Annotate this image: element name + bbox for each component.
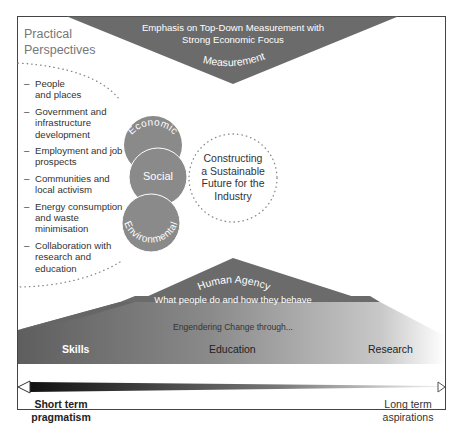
goal-line: Future for the: [189, 177, 277, 190]
practical-perspectives-title: Practical Perspectives: [24, 26, 96, 58]
list-item: –Energy consumptionand wasteminimisation: [24, 201, 134, 235]
dash-icon: –: [24, 78, 29, 89]
short-term-label: Short term pragmatism: [28, 398, 94, 424]
timeline-arrow-shaft: [30, 382, 442, 392]
goal-line: a Sustainable: [189, 165, 277, 178]
change-heading: Engendering Change through...: [150, 322, 316, 332]
list-item: –Employment and jobprospects: [24, 145, 134, 168]
short-term-line2: pragmatism: [28, 411, 94, 424]
dash-icon: –: [24, 145, 29, 156]
long-term-line1: Long term: [375, 398, 441, 411]
dash-icon: –: [24, 106, 29, 117]
list-item-line: infrastructure: [35, 117, 134, 128]
long-term-line2: aspirations: [375, 411, 441, 424]
timeline-right-arrowhead: [438, 382, 445, 392]
list-item-line: Government and: [35, 106, 134, 117]
list-item: –Peopleand places: [24, 78, 134, 101]
dash-icon: –: [24, 173, 29, 184]
list-item-line: Energy consumption: [35, 201, 134, 212]
list-item-line: minimisation: [35, 223, 134, 234]
list-item-line: education: [35, 263, 134, 274]
list-item-line: local activism: [35, 184, 134, 195]
measurement-heading: Emphasis on Top-Down Measurement with St…: [120, 22, 346, 46]
list-item-line: and waste: [35, 212, 134, 223]
long-term-label: Long term aspirations: [375, 398, 441, 424]
human-agency-subtitle: What people do and how they behave: [140, 294, 326, 305]
list-item-line: and places: [35, 89, 134, 100]
dash-icon: –: [24, 201, 29, 212]
skills-label: Skills: [62, 343, 89, 355]
education-label: Education: [209, 343, 256, 355]
goal-line: Constructing: [189, 152, 277, 165]
goal-line: Industry: [189, 190, 277, 203]
pp-title-line1: Practical: [24, 26, 96, 42]
list-item: –Collaboration withresearch andeducation: [24, 240, 134, 274]
social-label: Social: [129, 170, 187, 182]
list-item-line: development: [35, 129, 134, 140]
list-item: –Government andinfrastructuredevelopment: [24, 106, 134, 140]
list-item: –Communities andlocal activism: [24, 173, 134, 196]
practical-perspectives-list: –Peopleand places –Government andinfrast…: [24, 78, 134, 279]
list-item-line: Employment and job: [35, 145, 134, 156]
pp-title-line2: Perspectives: [24, 42, 96, 58]
goal-text: Constructing a Sustainable Future for th…: [189, 152, 277, 202]
measurement-heading-line2: Strong Economic Focus: [120, 34, 346, 46]
research-label: Research: [368, 343, 413, 355]
list-item-line: Collaboration with: [35, 240, 134, 251]
dash-icon: –: [24, 240, 29, 251]
short-term-line1: Short term: [28, 398, 94, 411]
list-item-line: People: [35, 78, 134, 89]
timeline-left-arrowhead: [18, 381, 30, 393]
list-item-line: prospects: [35, 156, 134, 167]
list-item-line: research and: [35, 251, 134, 262]
list-item-line: Communities and: [35, 173, 134, 184]
measurement-heading-line1: Emphasis on Top-Down Measurement with: [120, 22, 346, 34]
